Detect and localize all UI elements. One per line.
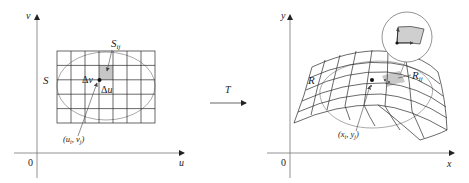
- inset-point: [395, 41, 398, 44]
- origin-label-right: 0: [281, 157, 286, 168]
- xy-point-label: (xi, yj): [338, 129, 359, 140]
- u-axis-label: u: [179, 157, 184, 168]
- vector-tip-c: [388, 81, 390, 83]
- transformation-t: T: [210, 84, 246, 103]
- sample-point-xy: [370, 78, 374, 82]
- uv-point-label: (ui, vj): [63, 134, 84, 145]
- sij-label: Sij: [111, 37, 120, 51]
- uv-point-leader: [78, 83, 97, 136]
- change-of-variables-diagram: v 0 u S Sij: [0, 0, 469, 183]
- x-axis-label: x: [446, 158, 452, 169]
- v-axis-label: v: [26, 10, 31, 21]
- subregion-rij: [382, 71, 405, 87]
- xy-point-leader: [356, 86, 370, 131]
- uv-plane: v 0 u S Sij: [14, 10, 184, 178]
- vector-tip-b: [384, 79, 386, 81]
- y-axis-label: y: [280, 10, 286, 21]
- region-r-label: R: [307, 74, 315, 86]
- inset-patch: [397, 26, 424, 44]
- sample-point-uv: [98, 78, 102, 82]
- region-s-label: S: [43, 74, 49, 86]
- vector-tip-a: [370, 85, 372, 87]
- delta-v-label: Δv: [82, 74, 93, 85]
- subrectangle-sij: [99, 65, 113, 79]
- curved-grid: [294, 50, 447, 140]
- delta-u-label: Δu: [101, 84, 112, 95]
- origin-label-left: 0: [28, 157, 33, 168]
- xy-plane: y 0 x: [267, 10, 454, 178]
- transformation-label: T: [225, 84, 232, 95]
